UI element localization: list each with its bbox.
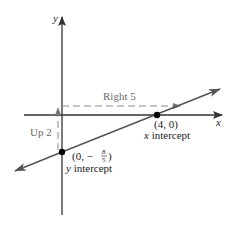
coordinate-plane: y x Right 5 Up 2 (4, 0) x intercept (0, … — [0, 0, 232, 229]
y-intercept-frac-num: 8 — [102, 148, 106, 156]
x-axis-label: x — [215, 116, 221, 128]
y-axis-label: y — [52, 12, 58, 24]
x-intercept-caption: x intercept — [143, 129, 190, 141]
y-intercept-point — [59, 149, 65, 155]
graph-line-left — [15, 152, 62, 171]
right-label: Right 5 — [103, 90, 136, 102]
up-label: Up 2 — [30, 126, 52, 138]
y-intercept-caption: y intercept — [65, 162, 112, 174]
graph-line — [62, 89, 220, 152]
